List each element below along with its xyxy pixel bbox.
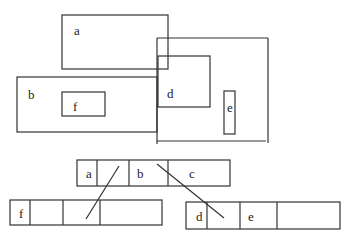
root-entry-b: b (137, 166, 144, 181)
r-tree-diagram: a b f d e a b c f d e (0, 0, 352, 242)
left-child-entry-f: f (19, 206, 24, 221)
region-b-label: b (28, 87, 35, 102)
region-d (158, 56, 210, 107)
region-f (62, 92, 105, 116)
tree-pointers (86, 164, 224, 219)
region-e-label: e (227, 100, 233, 115)
region-a-label: a (74, 23, 80, 38)
tree-left-child-node (10, 200, 162, 225)
region-b (17, 77, 157, 132)
tree-root-node (77, 160, 230, 186)
region-d-label: d (167, 86, 174, 101)
spatial-regions (17, 15, 268, 144)
right-child-entry-e: e (248, 209, 254, 224)
right-child-entry-d: d (196, 209, 203, 224)
root-entry-c: c (189, 166, 195, 181)
root-entry-a: a (86, 166, 92, 181)
region-f-label: f (73, 99, 78, 114)
